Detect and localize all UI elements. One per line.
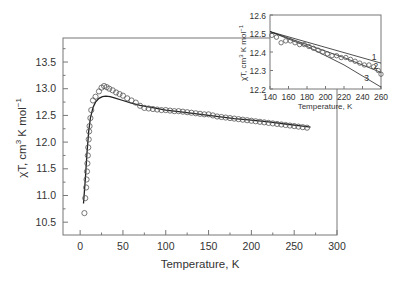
y-tick-label: 12.3 — [249, 66, 266, 76]
x-tick-label: 180 — [300, 92, 314, 102]
x-tick-label: 220 — [337, 92, 351, 102]
curve-label-3: 3 — [364, 73, 369, 83]
y-tick-label: 11.0 — [36, 189, 56, 201]
curve-label-2: 2 — [374, 61, 379, 71]
x-tick-label: 200 — [318, 92, 332, 102]
x-tick-label: 100 — [157, 240, 175, 252]
x-tick-label: 50 — [117, 240, 129, 252]
y-tick-label: 12.5 — [249, 29, 266, 39]
x-tick-label: 0 — [77, 240, 83, 252]
x-tick-label: 240 — [355, 92, 369, 102]
x-axis-label: Temperature, K — [161, 258, 240, 270]
x-tick-label: 160 — [281, 92, 295, 102]
y-tick-label: 12.5 — [36, 109, 57, 121]
y-tick-label: 11.5 — [36, 162, 56, 174]
y-tick-label: 12.2 — [249, 85, 266, 95]
x-tick-label: 260 — [374, 92, 388, 102]
y-axis-label: χT, cm3 K mol−1 — [14, 98, 28, 178]
y-tick-label: 12.6 — [249, 11, 266, 21]
x-tick-label: 150 — [200, 240, 218, 252]
x-tick-label: 300 — [328, 240, 346, 252]
y-tick-label: 10.5 — [36, 216, 57, 228]
y-tick-label: 12.4 — [249, 48, 266, 58]
y-tick-label: 13.0 — [36, 82, 57, 94]
y-tick-label: 13.5 — [36, 56, 57, 68]
inset-y-axis-label: χT, cm3 K mol−1 — [238, 24, 248, 81]
x-tick-label: 250 — [285, 240, 303, 252]
chart-figure: 05010015020025030010.511.011.512.012.513… — [0, 0, 400, 281]
x-tick-label: 200 — [243, 240, 261, 252]
inset-x-axis-label: Temperature, K — [298, 102, 353, 111]
y-tick-label: 12.0 — [36, 136, 57, 148]
